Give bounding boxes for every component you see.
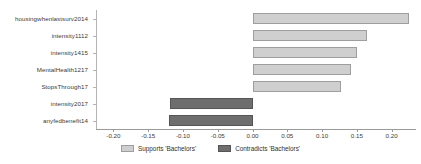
bar-series-supports [253,47,357,58]
x-axis-tick-label: 0.20 [386,132,398,139]
bar-chart: housingwhenlastsurv2014 intensity1112 in… [0,0,421,164]
bar-series-supports [253,13,410,24]
legend-swatch-icon [121,145,134,152]
x-axis-line [96,129,416,130]
chart-legend: Supports 'Bachelors' Contradicts 'Bachel… [0,145,421,152]
bar-series-supports [253,30,368,41]
plot-area [96,10,416,129]
legend-swatch-icon [218,145,231,152]
x-axis-tick-label: -0.20 [106,132,120,139]
y-axis-tick [93,36,96,37]
legend-item-contradicts: Contradicts 'Bachelors' [218,145,300,152]
legend-item-supports: Supports 'Bachelors' [121,145,196,152]
y-axis-label: anyfedbenefit14 [43,117,88,124]
bar-series-contradicts [170,98,252,109]
y-axis-label: housingwhenlastsurv2014 [15,15,88,22]
bar-series-contradicts [169,115,252,126]
y-axis-tick [93,121,96,122]
x-axis-tick-label: 0.10 [316,132,328,139]
y-axis-label: StopsThrough17 [41,83,88,90]
y-axis-tick [93,70,96,71]
x-axis-tick-label: 0.00 [246,132,258,139]
y-axis-label: MentalHealth1217 [37,66,88,73]
x-axis-tick-label: -0.15 [141,132,155,139]
legend-label: Contradicts 'Bachelors' [235,145,300,152]
y-axis-tick [93,19,96,20]
x-axis-tick-label: 0.05 [281,132,293,139]
x-axis-tick-label: -0.05 [211,132,225,139]
y-axis-tick [93,87,96,88]
x-axis-tick-label: 0.15 [351,132,363,139]
y-axis-labels: housingwhenlastsurv2014 intensity1112 in… [0,10,92,129]
y-axis-label: intensity1415 [51,49,88,56]
y-axis-tick [93,53,96,54]
bar-series-supports [253,81,341,92]
y-axis-tick [93,104,96,105]
x-axis-tick-label: -0.10 [176,132,190,139]
y-axis-label: intensity1112 [52,32,88,39]
bar-series-supports [253,64,352,75]
y-axis-label: intensity2017 [51,100,88,107]
legend-label: Supports 'Bachelors' [138,145,196,152]
